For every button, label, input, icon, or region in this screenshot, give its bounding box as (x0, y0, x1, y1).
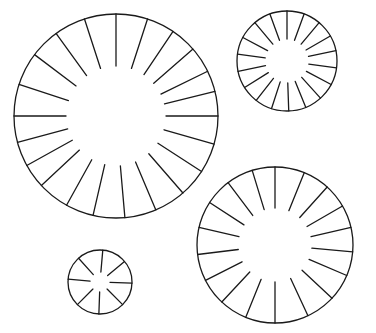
wheel-spoke (158, 143, 202, 171)
wheel-spoke (136, 162, 156, 210)
wheel-spoke (41, 150, 79, 185)
wheel-spoke (56, 33, 87, 75)
wheel-spoke (291, 279, 308, 316)
wheel-spoke (107, 289, 123, 305)
wheel-spoke (17, 129, 67, 142)
wheel-spoke (77, 289, 93, 305)
wheel-spoke (131, 19, 147, 68)
wheel-spoke (309, 64, 337, 68)
wheel-spoke (164, 130, 214, 144)
wheel-spoke (246, 279, 261, 317)
wheel-spoke (110, 282, 132, 283)
wheel-spoke (108, 261, 125, 275)
wheel-spoke (307, 206, 343, 227)
wheel-spoke (289, 173, 304, 211)
wheel-spoke (270, 14, 280, 40)
wheel-spoke (243, 38, 268, 51)
wheel-spoke (288, 83, 289, 111)
wheel-spoke (222, 272, 250, 302)
wheel-spoke (228, 183, 253, 216)
wheel-spoke (302, 77, 321, 98)
wheel-spoke (154, 49, 193, 83)
wheel-spoke (144, 31, 173, 74)
wheel-spoke (93, 165, 105, 216)
wheel-spoke (79, 258, 94, 274)
wheel-spoke (120, 166, 125, 218)
wheel-spoke (238, 66, 265, 72)
wheel-spoke (306, 71, 331, 84)
wheel-spoke (255, 23, 273, 44)
bottom-right-wheel (197, 167, 353, 323)
wheel-spoke (295, 81, 305, 107)
wheel-spoke (272, 82, 281, 109)
wheel-spoke (237, 54, 265, 58)
wheel-spoke (84, 19, 100, 68)
wheel-spoke (165, 91, 215, 104)
wheel-spoke (68, 279, 90, 281)
wheel-spoke (101, 250, 103, 272)
wheel-spoke (67, 160, 92, 205)
wheel-spoke (27, 140, 72, 165)
wheel-spoke (311, 227, 351, 236)
wheel-spoke (199, 227, 239, 236)
wheel-spoke (309, 51, 336, 57)
wheel-spoke (301, 23, 319, 44)
wheel-spoke (309, 259, 347, 275)
wheel-spoke (35, 55, 77, 86)
wheel-spoke (295, 14, 305, 40)
wheel-spoke (300, 187, 327, 217)
wheel-spoke (256, 78, 273, 100)
wheel-spoke (312, 248, 353, 252)
wheel-spoke (210, 203, 244, 225)
wheel-spoke (99, 292, 100, 314)
wheel-spoke (19, 84, 68, 100)
wheel-diagram (0, 0, 376, 333)
tiny-bottom-left-wheel (68, 250, 132, 314)
large-wheel (14, 14, 218, 218)
wheels-group (14, 11, 353, 323)
wheel-spoke (149, 154, 183, 193)
wheel-spoke (198, 250, 239, 255)
wheel-spoke (252, 170, 264, 209)
wheel-spoke (306, 36, 330, 50)
wheel-spoke (302, 270, 332, 298)
wheel-spoke (245, 73, 269, 88)
wheel-spoke (206, 262, 243, 281)
wheel-spoke (161, 71, 208, 94)
small-top-right-wheel (237, 11, 337, 111)
